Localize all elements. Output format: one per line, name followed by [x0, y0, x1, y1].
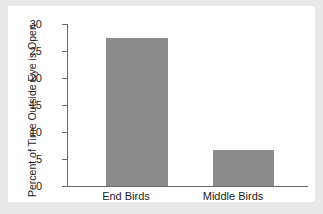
x-axis-line	[67, 186, 308, 187]
y-tick-0	[62, 186, 67, 187]
y-tick-label-25: 25	[2, 46, 42, 57]
y-tick-label-10: 10	[2, 127, 42, 138]
y-tick-30	[62, 24, 67, 25]
y-tick-25	[62, 51, 67, 52]
y-tick-15	[62, 105, 67, 106]
chart-figure-card: Percent of Time Outside Eye is Open 30 2…	[8, 6, 315, 202]
y-tick-label-15: 15	[2, 100, 42, 111]
y-tick-label-0: 0	[2, 181, 42, 192]
y-tick-label-20: 20	[2, 73, 42, 84]
x-tick-label-end-birds: End Birds	[76, 190, 176, 202]
x-tick-label-middle-birds: Middle Birds	[183, 190, 283, 202]
plot-area	[68, 24, 308, 186]
bar-middle-birds[interactable]	[213, 150, 274, 186]
y-tick-10	[62, 132, 67, 133]
bar-end-birds[interactable]	[106, 38, 168, 186]
y-tick-label-30: 30	[2, 19, 42, 30]
y-tick-5	[62, 159, 67, 160]
y-tick-label-5: 5	[2, 154, 42, 165]
y-tick-20	[62, 78, 67, 79]
